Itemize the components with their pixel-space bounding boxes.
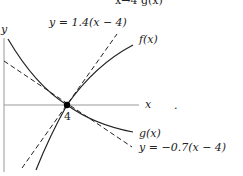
diagram: x→4 g(x) y x . 4 y = 1.4(x − 4) f(x) g(x…	[0, 0, 243, 176]
f-label: f(x)	[138, 33, 158, 46]
tangent-f-label: y = 1.4(x − 4)	[48, 16, 127, 29]
y-axis-label: y	[0, 23, 8, 36]
top-fragment: x→4 g(x)	[115, 0, 163, 7]
x-axis-label: x	[145, 98, 152, 111]
curve-f	[36, 45, 133, 170]
stray-mark: .	[174, 99, 178, 112]
point-label: 4	[64, 110, 71, 123]
g-label: g(x)	[139, 127, 161, 140]
intersection-point	[64, 102, 70, 108]
tangent-g-label: y = −0.7(x − 4)	[138, 141, 226, 154]
